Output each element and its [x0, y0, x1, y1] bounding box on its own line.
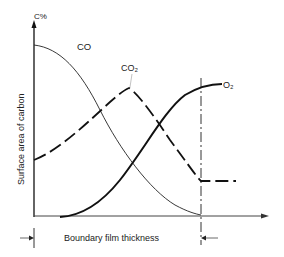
label-co2: CO₂	[121, 63, 139, 73]
label-co: CO	[77, 41, 91, 52]
x-axis-title: Boundary film thickness	[64, 233, 160, 243]
co2-leader-line	[130, 74, 132, 87]
dimension-arrow-right-icon	[29, 236, 34, 241]
curve-o2	[60, 84, 222, 217]
curve-co2	[34, 88, 236, 181]
x-axis-arrow-icon	[261, 214, 269, 219]
y-axis	[32, 20, 37, 217]
diagram-canvas: C% Surface area of carbon CO CO₂ O₂ Boun…	[0, 0, 284, 257]
y-axis-arrow-icon	[32, 20, 37, 28]
dimension-arrow-left-icon	[201, 236, 206, 241]
label-o2: O₂	[223, 80, 234, 90]
y-axis-title: Surface area of carbon	[16, 93, 26, 185]
curve-co	[34, 45, 201, 215]
y-axis-unit-label: C%	[34, 12, 47, 21]
